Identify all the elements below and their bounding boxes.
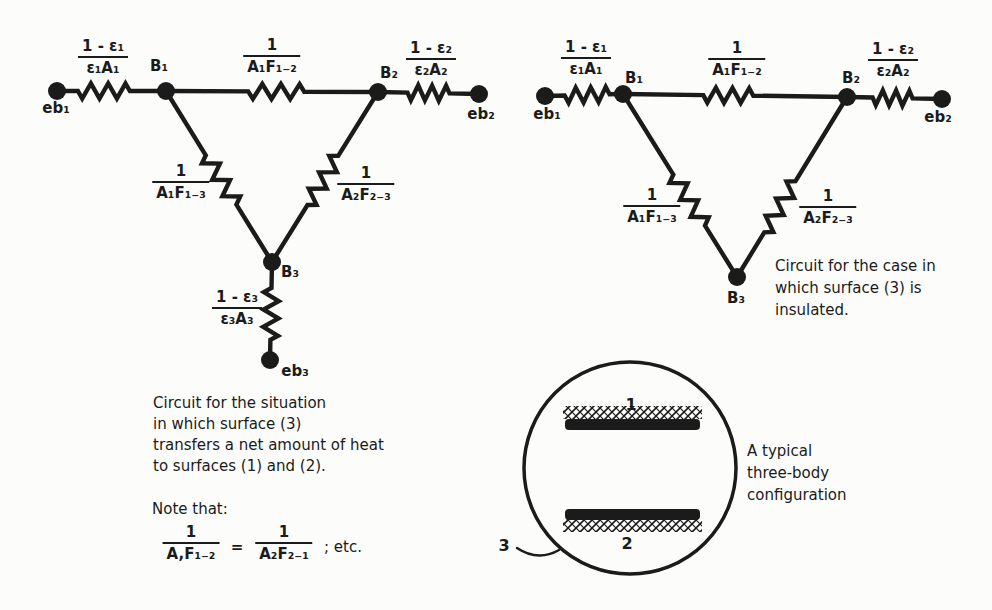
resistance-label: 1A₁F₁₋₂ [708, 39, 765, 79]
circuit-caption-line: insulated. [775, 300, 849, 320]
resistance-label: 1A₁F₁₋₃ [152, 162, 209, 202]
fraction-numerator: 1 [255, 523, 312, 542]
circuit-caption-line: in which surface (3) [153, 414, 301, 434]
node-label-B3: B₃ [727, 289, 745, 307]
circuit-caption-line: Circuit for the situation [153, 393, 326, 413]
fraction-denominator: A,F₁₋₂ [163, 542, 220, 563]
resistance-label: 1A₁F₁₋₃ [623, 186, 680, 226]
fraction-denominator: A₁F₁₋₂ [708, 58, 765, 79]
note-suffix: ; etc. [324, 538, 362, 556]
inset-caption-line: three-body [747, 463, 829, 483]
fraction-numerator: 1 - ε₂ [406, 39, 456, 58]
node-label-eb2: eb₂ [467, 105, 494, 123]
fraction-numerator: 1 [163, 523, 220, 542]
fraction-denominator: A₂F₂₋₃ [337, 183, 394, 204]
fraction-numerator: 1 [623, 186, 680, 205]
wire-resistor-B1-B2 [623, 88, 847, 103]
note-lhs-fraction: 1A,F₁₋₂ [163, 523, 220, 563]
fraction-denominator: ε₁A₁ [561, 57, 611, 78]
node-dot-eb3 [261, 351, 279, 369]
node-label-eb3: eb₃ [281, 362, 308, 380]
fraction-denominator: A₂F₂₋₃ [799, 206, 856, 227]
node-label-B1: B₁ [150, 57, 168, 75]
circuit-caption-line: which surface (3) is [775, 278, 922, 298]
fraction-denominator: A₁F₁₋₃ [623, 205, 680, 226]
surface-hatch-2 [563, 519, 702, 532]
circuit-caption-line: transfers a net amount of heat [153, 435, 384, 455]
fraction-denominator: A₂F₂₋₁ [255, 542, 312, 563]
node-dot-B2 [369, 83, 387, 101]
node-dot-B3 [263, 253, 281, 271]
note-rhs-fraction: 1A₂F₂₋₁ [255, 523, 312, 563]
fraction-numerator: 1 - ε₂ [868, 40, 918, 59]
node-label-B1: B₁ [625, 69, 643, 87]
fraction-numerator: 1 [152, 162, 209, 181]
wire-resistor-B1-B2 [166, 84, 378, 99]
wire-resistor-eb1-B1 [545, 87, 623, 103]
node-dot-B1 [614, 85, 632, 103]
node-dot-B3 [728, 268, 746, 286]
wire-resistor-B3-eb3 [263, 262, 279, 360]
note-heading: Note that: [152, 500, 228, 518]
node-dot-eb2 [933, 90, 951, 108]
wire-resistor-B2-eb2 [847, 90, 942, 105]
equals-sign: = [231, 538, 244, 556]
resistance-label: 1A₁F₁₋₂ [243, 36, 300, 76]
node-label-eb1: eb₁ [533, 105, 560, 123]
node-dot-B1 [157, 82, 175, 100]
circuit-caption-line: Circuit for the case in [775, 256, 936, 276]
wire-resistor-B2-eb2 [378, 85, 479, 100]
fraction-numerator: 1 [337, 164, 394, 183]
node-label-B3: B₃ [281, 263, 299, 281]
resistance-label: 1 - ε₃ε₃A₃ [212, 288, 262, 328]
surface-number-1: 1 [625, 395, 636, 414]
leader-line-3 [517, 548, 559, 556]
node-label-eb2: eb₂ [924, 108, 951, 126]
circuit-caption-line: to surfaces (1) and (2). [153, 456, 326, 476]
fraction-denominator: ε₁A₁ [78, 56, 128, 77]
inset-caption-line: configuration [747, 485, 847, 505]
surface-bar-1 [565, 419, 700, 430]
fraction-denominator: A₁F₁₋₂ [243, 55, 300, 76]
node-dot-eb1 [48, 82, 66, 100]
surface-number-2: 2 [621, 534, 632, 553]
fraction-denominator: ε₂A₂ [406, 58, 456, 79]
surface-number-3: 3 [498, 536, 509, 555]
textbook-figure: eb₁B₁B₂eb₂B₃eb₃1 - ε₁ε₁A₁1A₁F₁₋₂1 - ε₂ε₂… [0, 0, 992, 610]
fraction-denominator: A₁F₁₋₃ [152, 181, 209, 202]
node-label-B2: B₂ [380, 64, 398, 82]
node-dot-eb2 [470, 85, 488, 103]
resistance-label: 1 - ε₂ε₂A₂ [406, 39, 456, 79]
resistance-label: 1A₂F₂₋₃ [799, 187, 856, 227]
fraction-numerator: 1 - ε₁ [78, 37, 128, 56]
node-dot-B2 [838, 88, 856, 106]
fraction-numerator: 1 - ε₃ [212, 288, 262, 307]
resistance-label: 1A₂F₂₋₃ [337, 164, 394, 204]
fraction-denominator: ε₃A₃ [212, 307, 262, 328]
fraction-numerator: 1 [243, 36, 300, 55]
inset-caption-line: A typical [747, 441, 812, 461]
wire-resistor-eb1-B1 [57, 84, 166, 99]
fraction-numerator: 1 - ε₁ [561, 38, 611, 57]
node-dot-eb1 [536, 87, 554, 105]
resistance-label: 1 - ε₁ε₁A₁ [561, 38, 611, 78]
resistance-label: 1 - ε₁ε₁A₁ [78, 37, 128, 77]
node-label-eb1: eb₁ [42, 99, 69, 117]
fraction-numerator: 1 [708, 39, 765, 58]
fraction-numerator: 1 [799, 187, 856, 206]
resistance-label: 1 - ε₂ε₂A₂ [868, 40, 918, 80]
node-label-B2: B₂ [842, 69, 860, 87]
surface-bar-2 [565, 509, 700, 520]
fraction-denominator: ε₂A₂ [868, 59, 918, 80]
